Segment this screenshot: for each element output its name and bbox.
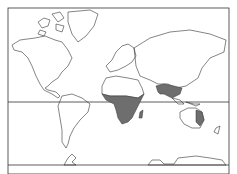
shaded-eastern-australia <box>196 110 204 126</box>
new-zealand <box>214 126 220 134</box>
shaded-regions <box>102 84 204 126</box>
arctic-islands <box>38 12 64 36</box>
shaded-madagascar <box>139 110 143 118</box>
shaded-india-southeast-asia <box>156 84 182 98</box>
antarctica-east <box>148 156 226 165</box>
continent-outlines <box>12 10 226 165</box>
europe <box>106 44 136 72</box>
africa-north <box>102 76 144 98</box>
world-map <box>0 0 237 174</box>
greenland <box>68 10 98 42</box>
shaded-sub-saharan-africa <box>102 94 144 124</box>
north-america <box>12 36 72 98</box>
antarctic-peninsula <box>64 154 76 165</box>
map-frame <box>8 8 229 174</box>
asia <box>134 30 226 88</box>
